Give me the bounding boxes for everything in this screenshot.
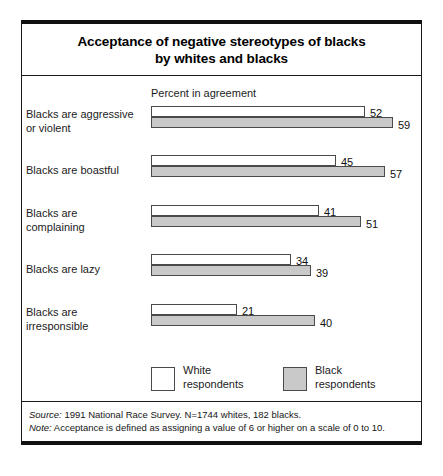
bar-white-1	[151, 155, 336, 166]
legend-label-black-line-1: Black	[315, 364, 342, 376]
category-label-2-line-2: complaining	[26, 221, 148, 235]
legend-label-black-line-2: respondents	[315, 378, 376, 390]
axis-caption: Percent in agreement	[151, 87, 256, 99]
chart-title-block: Acceptance of negative stereotypes of bl…	[22, 24, 421, 76]
category-label-4-line-2: irresponsible	[26, 320, 148, 334]
bar-white-2	[151, 205, 319, 216]
category-label-1-line-1: Blacks are boastful	[26, 164, 148, 178]
bar-white-0	[151, 106, 365, 117]
category-label-2-line-1: Blacks are	[26, 207, 148, 221]
value-label-black-0: 59	[398, 120, 410, 131]
page-title-line-1: Acceptance of negative stereotypes of bl…	[32, 33, 411, 50]
legend-entry-black: Black respondents	[283, 364, 376, 391]
definition-note-text: Acceptance is defined as assigning a val…	[52, 422, 385, 433]
value-label-black-1: 57	[390, 169, 402, 180]
category-label-0-line-1: Blacks are aggressive	[26, 108, 148, 122]
bar-white-4	[151, 304, 237, 315]
bar-black-4	[151, 315, 315, 326]
category-label-4: Blacks are irresponsible	[26, 306, 148, 333]
value-label-black-4: 40	[320, 318, 332, 329]
category-label-4-line-1: Blacks are	[26, 306, 148, 320]
legend-label-black: Black respondents	[315, 364, 376, 391]
category-label-0: Blacks are aggressive or violent	[26, 108, 148, 135]
category-label-1: Blacks are boastful	[26, 164, 148, 178]
legend-label-white-line-1: White	[183, 364, 211, 376]
definition-note-label: Note:	[29, 422, 52, 433]
definition-note: Note: Acceptance is defined as assigning…	[29, 422, 413, 435]
source-note-label: Source:	[29, 409, 62, 420]
bar-black-1	[151, 166, 385, 177]
bar-black-2	[151, 216, 361, 227]
legend-swatch-white-icon	[151, 367, 175, 391]
category-label-2: Blacks are complaining	[26, 207, 148, 234]
source-note-text: 1991 National Race Survey. N=1744 whites…	[62, 409, 301, 420]
chart-figure: Acceptance of negative stereotypes of bl…	[21, 20, 422, 445]
chart-legend: White respondents Black respondents	[151, 364, 401, 398]
chart-footnotes: Source: 1991 National Race Survey. N=174…	[22, 401, 421, 441]
bar-black-3	[151, 265, 311, 276]
value-label-black-2: 51	[366, 219, 378, 230]
bar-black-0	[151, 117, 393, 128]
legend-swatch-black-icon	[283, 367, 307, 391]
value-label-black-3: 39	[316, 268, 328, 279]
legend-label-white: White respondents	[183, 364, 244, 391]
legend-label-white-line-2: respondents	[183, 378, 244, 390]
category-label-3: Blacks are lazy	[26, 263, 148, 277]
source-note: Source: 1991 National Race Survey. N=174…	[29, 409, 413, 422]
plot-area: Percent in agreement Blacks are aggressi…	[22, 76, 421, 406]
legend-entry-white: White respondents	[151, 364, 244, 391]
bar-white-3	[151, 254, 291, 265]
category-label-0-line-2: or violent	[26, 122, 148, 136]
category-label-3-line-1: Blacks are lazy	[26, 263, 148, 277]
page-title-line-2: by whites and blacks	[32, 50, 411, 67]
